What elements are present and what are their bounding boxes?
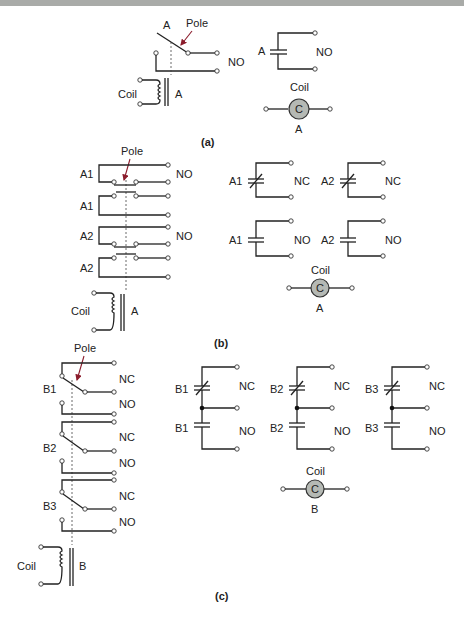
- coil-symbol-letter: C: [295, 103, 303, 115]
- contact-label: A2: [80, 230, 93, 242]
- symbol-type: NO: [385, 234, 402, 246]
- contact-label: A1: [80, 200, 93, 212]
- coil-core-label: A: [131, 305, 139, 317]
- junction-dot: [295, 406, 300, 411]
- pole-arrow-icon: [181, 31, 192, 45]
- coil-label: Coil: [71, 305, 90, 317]
- contact-label: A: [163, 19, 171, 31]
- coil-symbol-label: A: [316, 302, 324, 314]
- symbol-no: NO: [334, 425, 351, 437]
- coil-core-label: A: [175, 88, 183, 100]
- panel-c: Pole B1 NC NO B2 NC: [17, 342, 446, 602]
- panel-a: A Pole NO Coil A A: [118, 17, 333, 148]
- contact-nc: NC: [119, 431, 135, 443]
- symbol-type: NO: [294, 234, 311, 246]
- contact-label: B2: [43, 442, 56, 454]
- contact-label: A1: [80, 168, 93, 180]
- coil-core-label: B: [79, 560, 86, 572]
- coil-winding-icon: [96, 293, 114, 330]
- panel-b-relay: Pole A1 NO A1 A2: [71, 145, 193, 332]
- pole-label: Pole: [121, 145, 143, 157]
- symbol-nc: NC: [334, 380, 350, 392]
- contact-label: B1: [43, 383, 56, 395]
- panel-a-schematic: A NO Coil C A: [258, 31, 333, 135]
- panel-b-schematic: A1 NC A2 NC A1: [229, 161, 402, 314]
- panel-a-relay: A Pole NO Coil A: [118, 17, 245, 106]
- coil-symbol-letter: C: [316, 282, 324, 294]
- junction-dot: [390, 406, 395, 411]
- coil-symbol-title: Coil: [290, 81, 309, 93]
- symbol-label: B1: [175, 422, 188, 434]
- symbol-nc: NC: [239, 380, 255, 392]
- coil-symbol-label: B: [311, 503, 318, 515]
- coil-winding-icon: [43, 547, 62, 584]
- symbol-label: B3: [365, 383, 378, 395]
- terminal-icon: [215, 51, 219, 55]
- symbol-type: NC: [385, 175, 401, 187]
- contact-label: B3: [43, 500, 56, 512]
- contact-type: NO: [176, 230, 193, 242]
- coil-label: Coil: [17, 560, 36, 572]
- caption-c: (c): [215, 590, 229, 602]
- coil-winding-icon: [142, 80, 160, 104]
- pole-arrow-icon: [124, 159, 130, 180]
- symbol-type: NO: [316, 46, 333, 58]
- symbol-no: NO: [239, 425, 256, 437]
- contact-no: NO: [119, 457, 136, 469]
- symbol-label: B2: [270, 383, 283, 395]
- symbol-type: NC: [294, 175, 310, 187]
- terminal-icon: [215, 69, 219, 73]
- pole-label: Pole: [74, 342, 96, 354]
- contact-no: NO: [119, 516, 136, 528]
- pole-arrow-icon: [77, 356, 84, 380]
- terminal-icon: [186, 51, 190, 55]
- terminal-icon: [154, 51, 158, 55]
- symbol-label: A1: [229, 175, 242, 187]
- caption-a: (a): [201, 136, 215, 148]
- switch-blade: [157, 33, 188, 53]
- relay-diagram: A Pole NO Coil A A: [0, 0, 464, 623]
- symbol-label: A2: [321, 175, 334, 187]
- coil-symbol-title: Coil: [306, 465, 325, 477]
- symbol-label: B1: [175, 383, 188, 395]
- contact-label: A2: [80, 262, 93, 274]
- coil-label: Coil: [118, 88, 137, 100]
- coil-symbol-label: A: [295, 123, 303, 135]
- symbol-label: B3: [365, 422, 378, 434]
- caption-b: (b): [214, 337, 228, 349]
- coil-symbol-letter: C: [311, 483, 319, 495]
- panel-c-relay: Pole B1 NC NO B2 NC: [17, 342, 136, 586]
- contact-nc: NC: [119, 490, 135, 502]
- symbol-label: A: [258, 45, 266, 57]
- symbol-label: A1: [229, 234, 242, 246]
- contact-type: NO: [176, 168, 193, 180]
- panel-c-schematic: B1 NC B1 NO B2: [175, 365, 446, 515]
- contact-nc: NC: [119, 373, 135, 385]
- contact-type-label: NO: [228, 56, 245, 68]
- coil-symbol-title: Coil: [311, 264, 330, 276]
- symbol-nc: NC: [429, 380, 445, 392]
- panel-b: Pole A1 NO A1 A2: [71, 145, 402, 349]
- symbol-label: A2: [321, 234, 334, 246]
- junction-dot: [200, 406, 205, 411]
- pole-label: Pole: [186, 17, 208, 29]
- contact-no: NO: [119, 398, 136, 410]
- symbol-no: NO: [429, 425, 446, 437]
- symbol-label: B2: [270, 422, 283, 434]
